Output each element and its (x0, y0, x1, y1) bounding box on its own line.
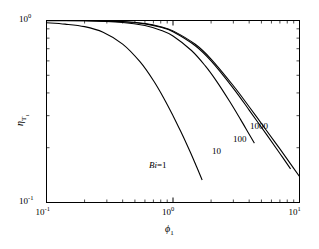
curve-label-bi-100: 100 (233, 134, 247, 144)
plot-frame-rect (47, 21, 300, 203)
figure-container: 10-1 100 101 10-1 100 ϕ1 ηT1 Bi=1 10 100… (0, 0, 319, 249)
x-tick-label-1e0: 100 (162, 207, 174, 217)
x-tick-label-1e1: 101 (289, 207, 301, 217)
curve-label-bi-1: Bi=1 (149, 160, 167, 170)
curve-bi-10 (47, 21, 255, 144)
curve-bi-1 (47, 23, 203, 180)
y-axis-major-ticks (47, 21, 300, 203)
data-curves (47, 20, 300, 180)
x-axis-major-ticks (47, 21, 300, 203)
curve-bi-1000 (47, 20, 300, 176)
curve-label-bi-1000: 1000 (250, 121, 268, 131)
curve-label-bi-10: 10 (212, 146, 221, 156)
curve-bi-100 (47, 20, 291, 168)
y-tick-label-1e0: 100 (19, 14, 31, 24)
y-axis-title: ηT1 (13, 96, 29, 144)
x-axis-title: ϕ1 (165, 223, 174, 234)
y-axis-title-text: ηT1 (14, 114, 27, 126)
x-tick-label-1e-1: 10-1 (36, 207, 50, 217)
y-tick-label-1e-1: 10-1 (19, 196, 33, 206)
axes-frame (47, 21, 300, 203)
